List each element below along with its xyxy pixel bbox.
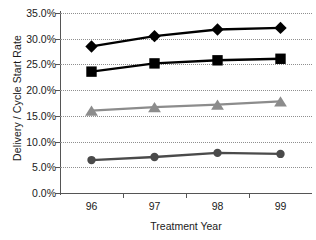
- x-axis-tick-label: 99: [261, 200, 301, 212]
- x-axis-title: Treatment Year: [60, 220, 312, 232]
- line-chart: Delivery / Cycle Start Rate 35.0%30.0%25…: [0, 0, 316, 240]
- gridline: [60, 13, 312, 14]
- y-axis-tick-label: 0.0%: [12, 187, 56, 199]
- y-axis-tick-label: 25.0%: [12, 58, 56, 70]
- y-axis-tick-label: 10.0%: [12, 136, 56, 148]
- y-axis-tickmark: [55, 13, 60, 14]
- y-axis-tickmark: [55, 90, 60, 91]
- x-axis-tick-label: 98: [198, 200, 238, 212]
- y-axis-tick-label: 20.0%: [12, 84, 56, 96]
- y-axis-tickmark: [55, 193, 60, 194]
- x-axis-tick-label: 96: [72, 200, 112, 212]
- gridline: [60, 116, 312, 117]
- gridline: [60, 142, 312, 143]
- y-axis-tickmark: [55, 116, 60, 117]
- gridline: [60, 167, 312, 168]
- y-axis-tick-label: 30.0%: [12, 33, 56, 45]
- gridline: [60, 64, 312, 65]
- y-axis-tickmark: [55, 167, 60, 168]
- y-axis-tick-label: 5.0%: [12, 161, 56, 173]
- x-axis-tickmark: [186, 193, 187, 198]
- plot-area: [60, 13, 312, 193]
- y-axis-tickmark: [55, 142, 60, 143]
- y-axis-tick-label: 15.0%: [12, 110, 56, 122]
- gridline: [60, 90, 312, 91]
- y-axis-tickmark: [55, 39, 60, 40]
- x-axis-line: [58, 193, 312, 194]
- y-axis-tickmark: [55, 64, 60, 65]
- x-axis-tickmark: [249, 193, 250, 198]
- y-axis-tick-labels: 35.0%30.0%25.0%20.0%15.0%10.0%5.0%0.0%: [8, 0, 56, 240]
- y-axis-tick-label: 35.0%: [12, 7, 56, 19]
- x-axis-tick-label: 97: [135, 200, 175, 212]
- gridline: [60, 39, 312, 40]
- x-axis-tickmark: [123, 193, 124, 198]
